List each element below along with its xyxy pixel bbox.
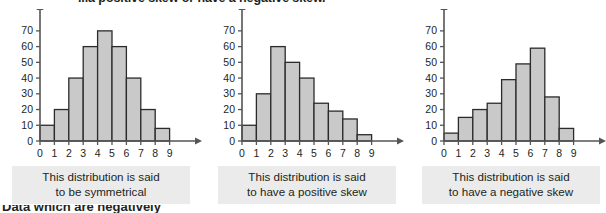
chart-canvas-negative-skew: 0102030405060700123456789 [404, 9, 606, 164]
x-tick-label-8: 8 [152, 147, 158, 159]
y-tick-label-30: 30 [21, 87, 33, 99]
x-tick-label-0: 0 [37, 147, 43, 159]
x-tick-label-4: 4 [95, 147, 101, 159]
y-tick-label-50: 50 [21, 56, 33, 68]
bar-4 [502, 80, 516, 141]
y-tick-label-60: 60 [223, 40, 235, 52]
x-tick-label-2: 2 [66, 147, 72, 159]
y-axis-arrow-icon [36, 9, 43, 10]
bar-0 [40, 125, 54, 141]
caption-line-1: This distribution is said [12, 170, 190, 185]
bar-5 [314, 103, 328, 141]
chart-canvas-positive-skew: 0102030405060700123456789 [202, 9, 404, 164]
x-tick-label-6: 6 [527, 147, 533, 159]
bar-6 [328, 111, 342, 141]
y-tick-label-10: 10 [21, 119, 33, 131]
bar-5 [112, 47, 126, 141]
x-tick-label-6: 6 [123, 147, 129, 159]
bar-2 [473, 110, 487, 141]
x-tick-label-8: 8 [556, 147, 562, 159]
x-tick-label-8: 8 [354, 147, 360, 159]
bar-0 [444, 133, 458, 141]
top-heading-text: ...a positive skew or have a negative sk… [78, 0, 325, 5]
x-tick-label-3: 3 [282, 147, 288, 159]
bar-7 [343, 119, 357, 141]
y-tick-label-70: 70 [425, 24, 437, 36]
chart-canvas-symmetrical: 0102030405060700123456789 [0, 9, 202, 164]
x-tick-label-1: 1 [253, 147, 259, 159]
y-tick-label-60: 60 [21, 40, 33, 52]
x-tick-label-0: 0 [441, 147, 447, 159]
caption-negative-skew: This distribution is said to have a nega… [422, 166, 600, 204]
bar-6 [530, 48, 544, 141]
x-axis-arrow-icon [599, 137, 606, 144]
bottom-heading-text: Data which are negatively [2, 205, 161, 213]
y-tick-label-40: 40 [21, 72, 33, 84]
bar-5 [516, 64, 530, 141]
y-tick-label-30: 30 [223, 87, 235, 99]
histogram-symmetrical: 0102030405060700123456789 [0, 9, 202, 164]
bar-3 [487, 103, 501, 141]
y-tick-label-0: 0 [431, 135, 437, 147]
histogram-negative-skew: 0102030405060700123456789 [404, 9, 606, 164]
bar-1 [458, 117, 472, 141]
y-tick-label-10: 10 [425, 119, 437, 131]
x-tick-label-0: 0 [239, 147, 245, 159]
x-tick-label-9: 9 [369, 147, 375, 159]
caption-line-2: to have a positive skew [218, 185, 396, 200]
x-axis-arrow-icon [397, 137, 404, 144]
bar-4 [98, 31, 112, 141]
x-tick-label-6: 6 [325, 147, 331, 159]
x-tick-label-5: 5 [109, 147, 115, 159]
bar-8 [559, 128, 573, 141]
bar-3 [83, 47, 97, 141]
y-tick-label-0: 0 [229, 135, 235, 147]
y-axis-arrow-icon [440, 9, 447, 10]
bar-6 [126, 78, 140, 141]
bar-3 [285, 62, 299, 141]
y-tick-label-20: 20 [223, 103, 235, 115]
x-tick-label-1: 1 [455, 147, 461, 159]
x-tick-label-3: 3 [80, 147, 86, 159]
y-tick-label-40: 40 [223, 72, 235, 84]
y-tick-label-70: 70 [223, 24, 235, 36]
x-tick-label-7: 7 [542, 147, 548, 159]
bar-7 [141, 110, 155, 141]
top-heading-clipped: ...a positive skew or have a negative sk… [0, 0, 606, 9]
x-axis-arrow-icon [195, 137, 202, 144]
bar-1 [256, 94, 270, 141]
y-tick-label-0: 0 [27, 135, 33, 147]
y-tick-label-60: 60 [425, 40, 437, 52]
caption-line-1: This distribution is said [218, 170, 396, 185]
y-tick-label-20: 20 [425, 103, 437, 115]
distribution-panel-positive-skew: 0102030405060700123456789 This distribut… [202, 9, 404, 205]
y-tick-label-20: 20 [21, 103, 33, 115]
x-tick-label-2: 2 [470, 147, 476, 159]
distribution-panel-negative-skew: 0102030405060700123456789 This distribut… [404, 9, 606, 205]
bar-8 [357, 135, 371, 141]
y-tick-label-70: 70 [21, 24, 33, 36]
bar-4 [300, 78, 314, 141]
x-tick-label-4: 4 [297, 147, 303, 159]
x-tick-label-9: 9 [571, 147, 577, 159]
bar-2 [69, 78, 83, 141]
y-tick-label-40: 40 [425, 72, 437, 84]
caption-symmetrical: This distribution is said to be symmetri… [12, 166, 190, 204]
caption-line-2: to be symmetrical [12, 185, 190, 200]
x-tick-label-1: 1 [51, 147, 57, 159]
bar-2 [271, 47, 285, 141]
caption-line-1: This distribution is said [422, 170, 600, 185]
y-tick-label-50: 50 [223, 56, 235, 68]
distribution-panel-symmetrical: 0102030405060700123456789 This distribut… [0, 9, 202, 205]
y-axis-arrow-icon [238, 9, 245, 10]
bar-0 [242, 125, 256, 141]
x-tick-label-9: 9 [167, 147, 173, 159]
x-tick-label-7: 7 [138, 147, 144, 159]
y-tick-label-30: 30 [425, 87, 437, 99]
histogram-positive-skew: 0102030405060700123456789 [202, 9, 404, 164]
caption-line-2: to have a negative skew [422, 185, 600, 200]
y-tick-label-10: 10 [223, 119, 235, 131]
y-tick-label-50: 50 [425, 56, 437, 68]
x-tick-label-5: 5 [311, 147, 317, 159]
bar-7 [545, 97, 559, 141]
